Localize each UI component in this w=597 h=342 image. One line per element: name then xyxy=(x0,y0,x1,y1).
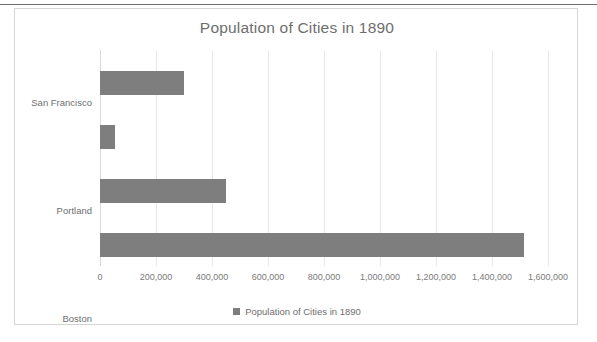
chart-legend: Population of Cities in 1890 xyxy=(15,306,579,317)
category-label: Portland xyxy=(0,205,92,216)
x-tick-label: 1,000,000 xyxy=(360,272,400,282)
chart-title: Population of Cities in 1890 xyxy=(15,19,579,37)
x-tick-label: 1,400,000 xyxy=(472,272,512,282)
x-tick-label: 800,000 xyxy=(308,272,341,282)
gridline xyxy=(548,50,549,266)
plot-area: 0200,000400,000600,000800,0001,000,0001,… xyxy=(100,50,548,266)
bar-boston[interactable]: Boston xyxy=(100,179,226,203)
legend-marker-icon xyxy=(233,308,240,315)
category-label: San Francisco xyxy=(0,97,92,108)
legend-label: Population of Cities in 1890 xyxy=(245,306,361,317)
x-tick-label: 200,000 xyxy=(140,272,173,282)
top-divider-rule xyxy=(0,4,597,5)
x-tick-label: 0 xyxy=(97,272,102,282)
bar-san-francisco[interactable]: San Francisco xyxy=(100,71,184,95)
x-tick-label: 400,000 xyxy=(196,272,229,282)
bar-portland[interactable]: Portland xyxy=(100,125,115,149)
chart-frame: Population of Cities in 1890 0200,000400… xyxy=(14,8,578,325)
bar-new-york-city[interactable]: New York City xyxy=(100,233,524,257)
x-tick-label: 600,000 xyxy=(252,272,285,282)
x-tick-label: 1,600,000 xyxy=(528,272,568,282)
x-tick-label: 1,200,000 xyxy=(416,272,456,282)
